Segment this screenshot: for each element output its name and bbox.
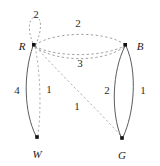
node-label-g: G bbox=[118, 150, 126, 161]
node-label-r: R bbox=[19, 41, 26, 52]
node-vertex-r bbox=[32, 43, 36, 47]
edge-weight-r-b-third: 3 bbox=[77, 58, 83, 69]
weighted-graph-figure: R B W G 2 2 3 4 1 1 2 1 bbox=[0, 0, 160, 166]
edge-weight-r-w-dashed: 1 bbox=[46, 84, 52, 95]
edge-b-g-right bbox=[123, 46, 133, 137]
edge-weight-b-g-left: 2 bbox=[104, 85, 110, 96]
node-vertex-w bbox=[35, 135, 39, 139]
node-label-b: B bbox=[137, 41, 144, 52]
edge-r-r-loop bbox=[29, 17, 40, 44]
edge-weight-r-w-solid: 4 bbox=[14, 85, 20, 96]
edge-b-g-left bbox=[114, 46, 125, 137]
node-label-w: W bbox=[32, 149, 41, 160]
edge-weight-r-loop: 2 bbox=[33, 9, 39, 20]
edge-weight-r-b-upper: 2 bbox=[75, 18, 81, 29]
edge-r-w-solid bbox=[26, 46, 36, 136]
edge-r-w-dashed bbox=[35, 47, 40, 135]
edge-weight-b-g-right: 1 bbox=[140, 85, 146, 96]
edge-weight-r-g-dashed: 1 bbox=[74, 101, 80, 112]
node-vertex-b bbox=[123, 43, 127, 47]
node-vertex-g bbox=[120, 136, 124, 140]
edge-r-b-upper bbox=[35, 34, 124, 45]
